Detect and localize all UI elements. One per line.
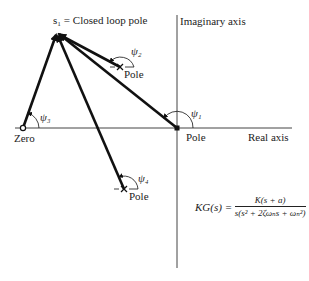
s1-label: s₁ = Closed loop pole bbox=[53, 15, 147, 26]
psi3-label: ψ₃ bbox=[40, 112, 51, 123]
psi2-label: ψ₂ bbox=[131, 46, 142, 57]
upper-pole-label: Pole bbox=[124, 69, 144, 80]
equation-lhs: KG(s) = bbox=[195, 201, 232, 213]
equation-denominator: s(s² + 2ζωₙs + ωₙ²) bbox=[235, 207, 306, 218]
pole-marker-origin bbox=[175, 126, 180, 131]
zero-marker bbox=[20, 125, 25, 130]
psi1-label: ψ₁ bbox=[191, 108, 202, 119]
zero-label: Zero bbox=[14, 133, 35, 144]
imaginary-axis-label: Imaginary axis bbox=[180, 16, 246, 27]
angle-arc-psi3 bbox=[28, 113, 39, 128]
equation-fraction: K(s + a) s(s² + 2ζωₙs + ωₙ²) bbox=[235, 195, 306, 218]
origin-pole-label: Pole bbox=[186, 132, 206, 143]
lower-pole-label: Pole bbox=[129, 191, 149, 202]
equation-numerator: K(s + a) bbox=[235, 195, 306, 207]
transfer-function: KG(s) = K(s + a) s(s² + 2ζωₙs + ωₙ²) bbox=[195, 195, 306, 218]
real-axis-label: Real axis bbox=[248, 132, 289, 143]
psi4-label: ψ₄ bbox=[138, 173, 149, 184]
